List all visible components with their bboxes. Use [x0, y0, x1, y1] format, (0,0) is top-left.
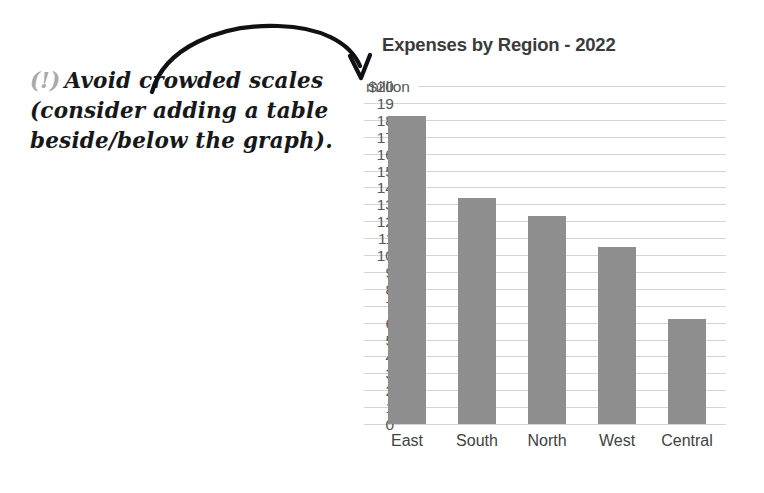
- x-tick-label: South: [437, 432, 517, 450]
- x-tick-label: North: [507, 432, 587, 450]
- bar: [458, 198, 496, 424]
- bar-series: [364, 86, 726, 424]
- x-tick-label: East: [367, 432, 447, 450]
- bar: [388, 116, 426, 424]
- x-tick-label: West: [577, 432, 657, 450]
- annotation-line-3: beside/below the graph).: [30, 126, 350, 156]
- plot-area: $20191817161514131211109876543210 millio…: [336, 86, 726, 424]
- bar: [668, 319, 706, 424]
- annotation-line-2: (consider adding a table: [30, 96, 350, 126]
- warning-bang-icon: (!): [30, 68, 60, 93]
- x-tick-label: Central: [647, 432, 727, 450]
- gridline: [364, 424, 726, 425]
- chart-title: Expenses by Region - 2022: [382, 34, 616, 56]
- bar: [528, 216, 566, 424]
- x-axis-tick-labels: EastSouthNorthWestCentral: [364, 432, 756, 462]
- bar: [598, 247, 636, 424]
- bar-chart: Expenses by Region - 2022 $2019181716151…: [336, 28, 756, 480]
